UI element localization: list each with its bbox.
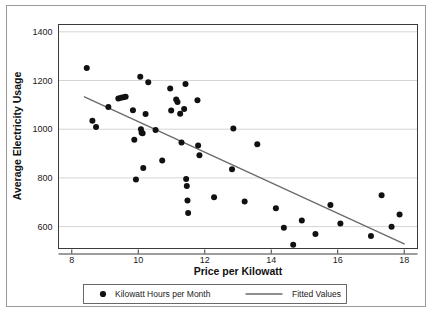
data-point: [273, 205, 279, 211]
data-point: [133, 177, 139, 183]
data-point: [130, 107, 136, 113]
data-point: [327, 202, 333, 208]
data-point: [368, 233, 374, 239]
data-point: [242, 199, 248, 205]
x-tick-label: 12: [200, 255, 210, 265]
data-point: [196, 152, 202, 158]
data-point: [84, 65, 90, 71]
data-point: [145, 79, 151, 85]
data-point: [89, 118, 95, 124]
x-tick-label: 18: [399, 255, 409, 265]
data-point: [195, 143, 201, 149]
data-point: [389, 224, 395, 230]
x-tick-label: 14: [266, 255, 276, 265]
data-point: [312, 231, 318, 237]
data-point: [168, 107, 174, 113]
data-point: [397, 211, 403, 217]
data-point: [299, 218, 305, 224]
y-tick-label: 1000: [32, 124, 52, 134]
data-point: [337, 220, 343, 226]
data-point: [178, 140, 184, 146]
data-point: [137, 74, 143, 80]
x-tick-label: 10: [133, 255, 143, 265]
y-tick-label: 1200: [32, 76, 52, 86]
y-tick-label: 600: [37, 222, 52, 232]
tick-marks: [59, 250, 418, 255]
data-point: [183, 176, 189, 182]
data-point: [379, 192, 385, 198]
data-point: [143, 111, 149, 117]
legend-label-scatter: Kilowatt Hours per Month: [115, 289, 211, 299]
gridlines: [59, 32, 418, 227]
data-point: [153, 127, 159, 133]
data-point: [167, 86, 173, 92]
data-point: [184, 183, 190, 189]
data-point: [181, 106, 187, 112]
scatter-plot: 600800100012001400 81012141618 Average E…: [0, 0, 434, 316]
x-tick-label: 8: [69, 255, 74, 265]
chart-figure: 600800100012001400 81012141618 Average E…: [0, 0, 434, 316]
data-point: [194, 97, 200, 103]
data-point: [182, 81, 188, 87]
y-tick-label: 800: [37, 173, 52, 183]
plot-area-border: [59, 25, 418, 249]
x-tick-label: 16: [333, 255, 343, 265]
data-point: [177, 111, 183, 117]
y-tick-label: 1400: [32, 27, 52, 37]
data-point: [140, 165, 146, 171]
data-point: [131, 137, 137, 143]
legend-marker-scatter: [100, 291, 106, 297]
legend: Kilowatt Hours per Month Fitted Values: [84, 285, 347, 304]
data-point: [254, 141, 260, 147]
fitted-values-line: [84, 97, 404, 244]
data-point: [93, 124, 99, 130]
x-axis-title: Price per Kilowatt: [194, 265, 283, 277]
data-point: [105, 104, 111, 110]
y-axis-tick-labels: 600800100012001400: [32, 27, 52, 232]
data-point: [281, 225, 287, 231]
data-point: [140, 130, 146, 136]
data-point: [123, 94, 129, 100]
data-point: [175, 99, 181, 105]
legend-label-fitted: Fitted Values: [292, 289, 341, 299]
data-point: [211, 194, 217, 200]
y-axis-title: Average Electricity Usage: [11, 72, 23, 201]
x-axis-tick-labels: 81012141618: [69, 255, 409, 265]
data-point: [184, 198, 190, 204]
data-point: [159, 158, 165, 164]
data-point: [185, 210, 191, 216]
data-point: [230, 125, 236, 131]
data-point: [290, 242, 296, 248]
data-point: [229, 166, 235, 172]
